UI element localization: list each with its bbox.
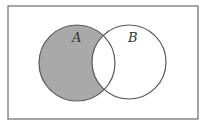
- set-b-label: B: [127, 30, 138, 45]
- venn-diagram: A B: [0, 0, 203, 126]
- universe-rectangle: [8, 6, 198, 119]
- set-a-label: A: [71, 30, 81, 45]
